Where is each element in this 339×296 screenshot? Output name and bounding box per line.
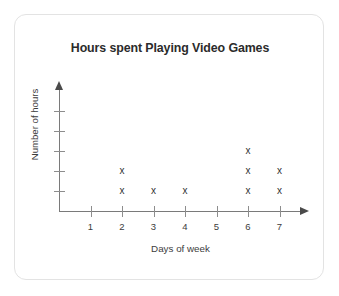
data-point-marker: x [241, 146, 255, 156]
data-point-marker: x [115, 186, 129, 196]
y-axis-arrow-icon [55, 81, 63, 90]
x-axis-tick-label: 6 [236, 221, 260, 232]
y-axis-tick [54, 111, 65, 112]
x-axis-label: Days of week [59, 243, 302, 254]
data-point-marker: x [147, 186, 161, 196]
x-axis-tick [248, 206, 249, 217]
x-axis-tick [154, 206, 155, 217]
x-axis-line [59, 211, 302, 212]
y-axis-tick [54, 191, 65, 192]
data-point-marker: x [241, 186, 255, 196]
plot-area: 1234567 xxxxxxxxx Number of hours Days o… [15, 15, 325, 281]
data-point-marker: x [115, 166, 129, 176]
x-axis-tick [122, 206, 123, 217]
x-axis-tick [91, 206, 92, 217]
x-axis-tick-label: 4 [173, 221, 197, 232]
x-axis-tick [185, 206, 186, 217]
chart-card: Hours spent Playing Video Games 1234567 … [14, 14, 324, 280]
x-axis-tick-label: 7 [268, 221, 292, 232]
x-axis-tick-label: 1 [79, 221, 103, 232]
data-point-marker: x [273, 186, 287, 196]
y-axis-label: Number of hours [29, 77, 40, 173]
x-axis-arrow-icon [300, 207, 309, 215]
x-axis-tick-label: 3 [142, 221, 166, 232]
data-point-marker: x [178, 186, 192, 196]
y-axis-tick [54, 151, 65, 152]
data-point-marker: x [241, 166, 255, 176]
x-axis-tick-label: 5 [205, 221, 229, 232]
data-point-marker: x [273, 166, 287, 176]
x-axis-tick [217, 206, 218, 217]
x-axis-tick-label: 2 [110, 221, 134, 232]
x-axis-tick [280, 206, 281, 217]
y-axis-tick [54, 131, 65, 132]
y-axis-tick [54, 171, 65, 172]
